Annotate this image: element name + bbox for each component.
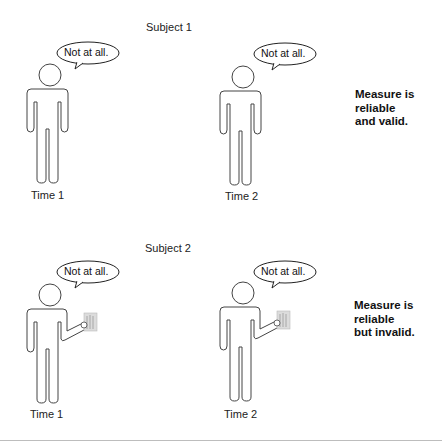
verdict-line: reliable [354, 313, 415, 327]
time-label: Time 2 [224, 408, 257, 420]
speech-text: Not at all. [64, 265, 108, 277]
divider [0, 440, 442, 441]
speech-text: Not at all. [261, 265, 305, 277]
person-figure-holding-object [220, 282, 290, 401]
verdict-line: Measure is [355, 88, 414, 102]
verdict-line: and valid. [355, 115, 414, 129]
diagram-artwork [0, 0, 442, 442]
person-figure [27, 64, 68, 183]
subject-label: Subject 1 [146, 21, 192, 33]
person-figure [220, 66, 261, 185]
time-label: Time 1 [30, 408, 63, 420]
time-label: Time 2 [225, 190, 258, 202]
subject-label: Subject 2 [145, 242, 191, 254]
verdict-line: but invalid. [354, 326, 415, 340]
person-figure-holding-object [27, 284, 97, 403]
verdict-text: Measure is reliable but invalid. [354, 299, 415, 340]
speech-text: Not at all. [64, 46, 108, 58]
verdict-line: reliable [355, 102, 414, 116]
verdict-text: Measure is reliable and valid. [355, 88, 414, 129]
speech-text: Not at all. [261, 47, 305, 59]
time-label: Time 1 [31, 189, 64, 201]
verdict-line: Measure is [354, 299, 415, 313]
